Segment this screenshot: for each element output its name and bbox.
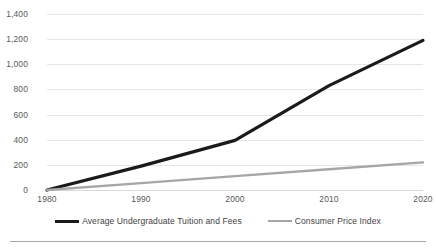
y-tick-label-1200: 1,200 xyxy=(0,34,28,44)
footer-divider xyxy=(10,241,426,242)
plot-area xyxy=(47,14,423,190)
x-tick-label-2000: 2000 xyxy=(205,194,265,204)
y-tick-label-1400: 1,400 xyxy=(0,9,28,19)
y-tick-label-600: 600 xyxy=(0,110,28,120)
legend-swatch-icon-1 xyxy=(55,220,79,223)
legend-label-1: Average Undergraduate Tuition and Fees xyxy=(82,216,242,226)
y-tick-label-200: 200 xyxy=(0,160,28,170)
y-tick-label-1000: 1,000 xyxy=(0,59,28,69)
y-tick-label-800: 800 xyxy=(0,84,28,94)
x-tick-label-1980: 1980 xyxy=(17,194,77,204)
x-tick-label-2020: 2020 xyxy=(393,194,436,204)
gridline-0 xyxy=(47,190,423,191)
line-chart: 02004006008001,0001,2001,400 19801990200… xyxy=(0,0,436,252)
legend-item-1[interactable]: Average Undergraduate Tuition and Fees xyxy=(55,216,242,226)
legend-item-2[interactable]: Consumer Price Index xyxy=(268,216,381,226)
y-tick-label-400: 400 xyxy=(0,135,28,145)
series-lines xyxy=(47,14,423,190)
x-tick-label-1990: 1990 xyxy=(111,194,171,204)
chart-legend: Average Undergraduate Tuition and FeesCo… xyxy=(0,216,436,226)
legend-swatch-icon-2 xyxy=(268,220,292,222)
legend-label-2: Consumer Price Index xyxy=(295,216,381,226)
x-tick-label-2010: 2010 xyxy=(299,194,359,204)
